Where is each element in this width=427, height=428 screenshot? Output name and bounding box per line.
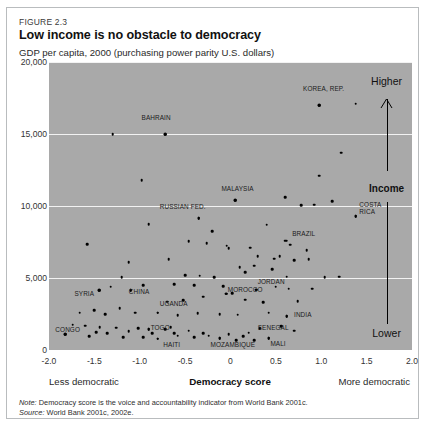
source-line: Source: World Bank 2001c, 2002e. bbox=[19, 408, 134, 417]
y-axis-caption: GDP per capita, 2000 (purchasing power p… bbox=[19, 47, 274, 58]
x-tick-label: 1.0 bbox=[315, 356, 327, 366]
y-tick-label: 20,000 bbox=[21, 57, 47, 67]
x-axis-title: Democracy score bbox=[189, 376, 271, 387]
figure-title: Low income is no obstacle to democracy bbox=[19, 28, 261, 42]
note-line: Note: Democracy score is the voice and a… bbox=[19, 398, 308, 407]
figure-number: FIGURE 2.3 bbox=[19, 17, 67, 27]
income-label: Income bbox=[369, 183, 404, 194]
income-arrow-shaft-lower bbox=[387, 202, 388, 324]
y-tick-label: 10,000 bbox=[21, 201, 47, 211]
note-text: Democracy score is the voice and account… bbox=[39, 398, 308, 407]
source-label: Source: bbox=[19, 408, 44, 417]
x-tick-label: 2.0 bbox=[406, 356, 418, 366]
x-tick-label: 1.5 bbox=[361, 356, 373, 366]
more-democratic-label: More democratic bbox=[339, 376, 410, 387]
x-tick-label: 0 bbox=[228, 356, 233, 366]
income-arrow-shaft-upper bbox=[387, 99, 388, 171]
income-lower-label: Lower bbox=[372, 327, 401, 339]
x-tick-label: 0.5 bbox=[270, 356, 282, 366]
arrow-up-icon bbox=[380, 99, 393, 109]
y-tick-label: 5,000 bbox=[25, 273, 47, 283]
source-text: World Bank 2001c, 2002e. bbox=[47, 408, 134, 417]
x-tick-label: -2.0 bbox=[42, 356, 57, 366]
income-higher-label: Higher bbox=[371, 75, 402, 87]
y-axis-ticks: 05,00010,00015,00020,000 bbox=[7, 62, 47, 350]
note-label: Note: bbox=[19, 398, 37, 407]
x-tick-label: -1.5 bbox=[87, 356, 102, 366]
x-tick-label: -1.0 bbox=[132, 356, 147, 366]
income-arrow-annotation: Higher Income Lower bbox=[49, 62, 412, 350]
x-tick-label: -0.5 bbox=[178, 356, 193, 366]
scatter-plot-area: KOREA, REP.BAHRAINMALAYSIARUSSIAN FED.BR… bbox=[49, 62, 412, 350]
less-democratic-label: Less democratic bbox=[49, 376, 119, 387]
figure-panel: FIGURE 2.3 Low income is no obstacle to … bbox=[6, 7, 419, 419]
y-tick-label: 0 bbox=[42, 345, 47, 355]
y-tick-label: 15,000 bbox=[21, 129, 47, 139]
